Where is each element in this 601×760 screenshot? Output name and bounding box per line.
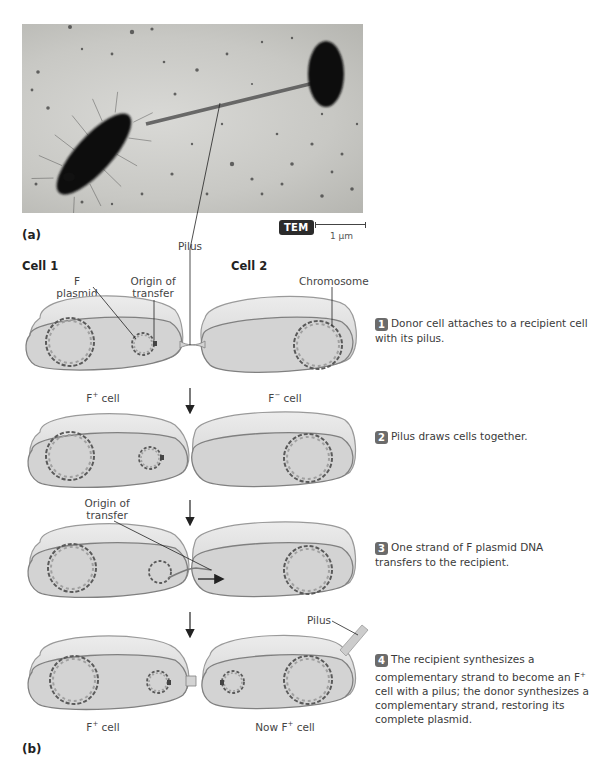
conjugation-diagram bbox=[0, 0, 601, 760]
pilus-leader-stage4 bbox=[332, 621, 358, 635]
pilus-leader-a bbox=[190, 103, 220, 249]
stage-1-cells bbox=[26, 296, 356, 372]
stage-3-cells bbox=[28, 522, 355, 598]
stage-2-cells bbox=[28, 412, 355, 488]
stage-4-cells bbox=[28, 625, 368, 710]
